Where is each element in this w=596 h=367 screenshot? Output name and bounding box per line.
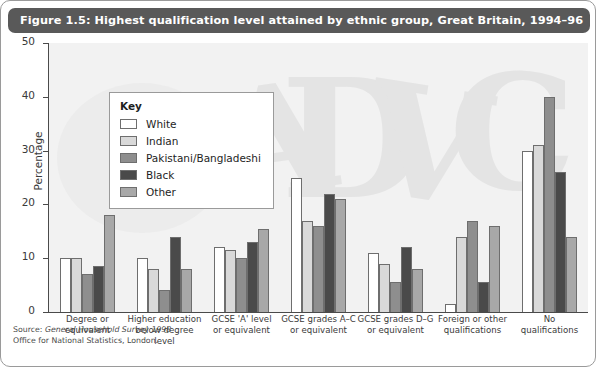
bar[interactable]	[82, 274, 93, 312]
bar[interactable]	[412, 269, 423, 312]
legend-swatch-icon	[120, 170, 137, 180]
footer-source-line: Source: General Household Survey 1998	[13, 324, 171, 335]
bar[interactable]	[401, 247, 412, 312]
x-axis-label-line: GCSE 'A' level	[203, 314, 280, 325]
bar[interactable]	[533, 145, 544, 312]
bar-group	[434, 43, 511, 312]
footer-source-title: General Household Survey 1998	[45, 325, 171, 334]
x-axis-label: GCSE grades A–Cor equivalent	[280, 314, 357, 347]
legend-item-indian[interactable]: Indian	[120, 132, 261, 149]
bar[interactable]	[324, 194, 335, 312]
bar[interactable]	[544, 97, 555, 312]
bar-group	[280, 43, 357, 312]
bar-group	[511, 43, 588, 312]
figure-card: Figure 1.5: Highest qualification level …	[0, 0, 596, 367]
bar[interactable]	[390, 282, 401, 312]
bar[interactable]	[302, 221, 313, 312]
legend-item-other[interactable]: Other	[120, 183, 261, 200]
legend-item-label: Black	[146, 169, 174, 181]
bar[interactable]	[104, 215, 115, 312]
legend-swatch-icon	[120, 187, 137, 197]
y-axis-tick: 20	[43, 204, 48, 205]
bar[interactable]	[456, 237, 467, 312]
bar[interactable]	[93, 266, 104, 312]
x-axis-label-line: GCSE grades A–C	[280, 314, 357, 325]
bar[interactable]	[148, 269, 159, 312]
legend-swatch-icon	[120, 119, 137, 129]
x-axis-label-line: or equivalent	[203, 325, 280, 336]
bar[interactable]	[489, 226, 500, 312]
legend-title: Key	[120, 100, 261, 112]
y-axis-tick-label: 0	[28, 304, 35, 316]
y-axis-tick: 10	[43, 258, 48, 259]
legend-item-label: Indian	[146, 135, 178, 147]
bar[interactable]	[379, 264, 390, 312]
bar[interactable]	[170, 237, 181, 312]
bar[interactable]	[159, 290, 170, 312]
x-axis-label: GCSE grades D–Gor equivalent	[357, 314, 434, 347]
legend-item-label: Pakistani/Bangladeshi	[146, 152, 261, 164]
y-axis-tick: 40	[43, 97, 48, 98]
bar[interactable]	[566, 237, 577, 312]
chart-plot-region: Percentage 01020304050 A D V C Key White…	[48, 43, 588, 313]
chart-legend: Key WhiteIndianPakistani/BangladeshiBlac…	[109, 92, 274, 209]
x-axis-label-line: or equivalent	[357, 325, 434, 336]
bar[interactable]	[181, 269, 192, 312]
bar[interactable]	[368, 253, 379, 312]
x-axis-label-line: qualifications	[511, 325, 588, 336]
legend-rows: WhiteIndianPakistani/BangladeshiBlackOth…	[120, 115, 261, 200]
bar[interactable]	[467, 221, 478, 312]
legend-item-black[interactable]: Black	[120, 166, 261, 183]
y-axis-tick-label: 20	[22, 196, 35, 208]
figure-title-bar: Figure 1.5: Highest qualification level …	[8, 8, 590, 33]
y-axis-tick-label: 40	[22, 89, 35, 101]
bar-group	[357, 43, 434, 312]
legend-item-label: White	[146, 118, 177, 130]
x-axis-label: Noqualifications	[511, 314, 588, 347]
x-axis-label: GCSE 'A' levelor equivalent	[203, 314, 280, 347]
footer-office-line: Office for National Statistics, London.	[13, 335, 171, 346]
figure-footer: Source: General Household Survey 1998 Of…	[13, 324, 171, 346]
legend-swatch-icon	[120, 153, 137, 163]
bar[interactable]	[313, 226, 324, 312]
y-axis-title: Percentage	[32, 131, 44, 190]
bar[interactable]	[247, 242, 258, 312]
figure-title: Figure 1.5: Highest qualification level …	[8, 14, 583, 27]
y-axis-tick: 0	[43, 312, 48, 313]
y-axis-tick-label: 10	[22, 250, 35, 262]
bar[interactable]	[60, 258, 71, 312]
y-axis-tick-label: 50	[22, 35, 35, 47]
bar[interactable]	[291, 178, 302, 313]
bar[interactable]	[478, 282, 489, 312]
x-axis-label-line: qualifications	[434, 325, 511, 336]
bar[interactable]	[335, 199, 346, 312]
bar[interactable]	[225, 250, 236, 312]
x-axis-line	[48, 312, 588, 313]
legend-item-white[interactable]: White	[120, 115, 261, 132]
legend-swatch-icon	[120, 136, 137, 146]
y-axis-tick-label: 30	[22, 143, 35, 155]
x-axis-label-line: GCSE grades D–G	[357, 314, 434, 325]
y-axis-tick: 50	[43, 43, 48, 44]
x-axis-label-line: or equivalent	[280, 325, 357, 336]
x-axis-label-line: No	[511, 314, 588, 325]
bar[interactable]	[258, 229, 269, 312]
bar[interactable]	[236, 258, 247, 312]
bar[interactable]	[522, 151, 533, 312]
x-axis-label-line: Foreign or other	[434, 314, 511, 325]
legend-item-label: Other	[146, 186, 176, 198]
bar[interactable]	[445, 304, 456, 312]
footer-source-prefix: Source:	[13, 325, 45, 334]
legend-item-pakistani-bangladeshi[interactable]: Pakistani/Bangladeshi	[120, 149, 261, 166]
bar[interactable]	[214, 247, 225, 312]
bar[interactable]	[71, 258, 82, 312]
bar[interactable]	[137, 258, 148, 312]
y-axis-tick: 30	[43, 151, 48, 152]
bar[interactable]	[555, 172, 566, 312]
x-axis-label: Foreign or otherqualifications	[434, 314, 511, 347]
